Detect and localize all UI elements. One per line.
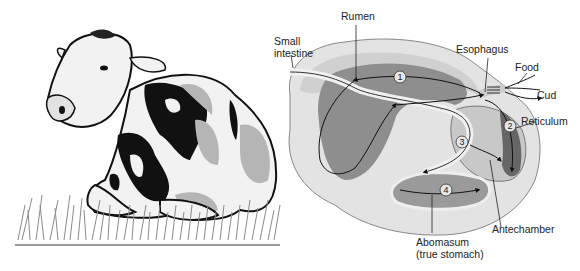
svg-text:3: 3 [459, 137, 464, 147]
cow [47, 30, 276, 220]
svg-text:1: 1 [397, 72, 402, 82]
label-esophagus: Esophagus [456, 43, 509, 55]
label-reticulum: Reticulum [521, 115, 568, 127]
svg-text:2: 2 [507, 121, 512, 131]
label-antechamber: Antechamber [492, 223, 554, 235]
label-cud: Cud [537, 89, 556, 101]
stomach-diagram: 1 2 3 4 [289, 25, 540, 235]
label-small-intestine: Small intestine [274, 35, 313, 59]
label-rumen: Rumen [341, 10, 375, 22]
label-food: Food [515, 61, 539, 73]
ruminant-digestion-figure: 1 2 3 4 Rumen Small intestine Esophagus [0, 0, 580, 271]
svg-text:4: 4 [443, 185, 448, 195]
label-abomasum: Abomasum (true stomach) [416, 236, 484, 260]
